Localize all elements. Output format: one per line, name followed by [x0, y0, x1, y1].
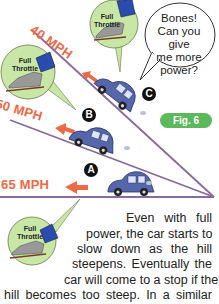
bubble-line-3: me more — [148, 51, 210, 64]
marker-b: B — [82, 108, 96, 122]
speech-bubble-text: Bones! Can you give me more power? — [148, 12, 210, 77]
arrow-40-icon — [82, 71, 98, 83]
arrow-50-icon — [55, 123, 75, 135]
throttle-label-line: Throttle — [8, 65, 42, 73]
throttle-label-line: Throttle — [13, 233, 47, 241]
bubble-line-4: power? — [148, 64, 210, 77]
throttle-inset-top — [90, 0, 138, 72]
body-text-line: hill becomes too steep. In a similar — [4, 288, 212, 304]
throttle-label-line: Full — [13, 225, 47, 233]
body-text-line: power, the car starts to — [86, 227, 212, 243]
arrow-65-icon — [65, 181, 88, 194]
throttle-label-line: Full — [8, 57, 42, 65]
throttle-label-line: Throttle — [91, 21, 123, 29]
body-text-line: car will come to a stop if the — [64, 273, 212, 289]
throttle-label-bottom: Full Throttle — [13, 225, 47, 241]
speed-label-65: 65 MPH — [1, 177, 49, 192]
body-text-line: Even with full — [126, 211, 212, 227]
bubble-line-2: Can you give — [148, 25, 210, 51]
bubble-line-1: Bones! — [148, 12, 210, 25]
throttle-label-middle: Full Throttle — [8, 57, 42, 73]
throttle-label-top: Full Throttle — [91, 13, 123, 29]
body-text-line: steepens. Eventually the — [72, 257, 212, 273]
marker-c: C — [142, 87, 156, 101]
marker-a: A — [84, 163, 98, 177]
body-text-line: slow down as the hill — [77, 242, 212, 258]
figure-label: Fig. 6 — [160, 113, 212, 128]
throttle-label-line: Full — [91, 13, 123, 21]
